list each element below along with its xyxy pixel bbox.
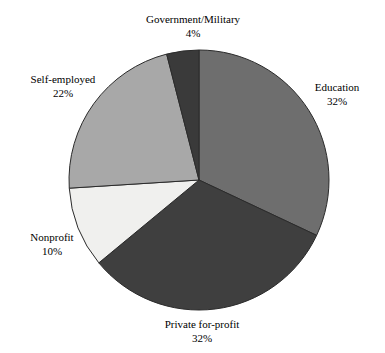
slice-label-education: Education 32% (294, 80, 380, 108)
slice-label-nonprofit-name: Nonprofit (4, 230, 100, 244)
slice-label-private-for-profit-value: 32% (132, 331, 272, 345)
slice-label-government-military: Government/Military 4% (113, 12, 273, 40)
slice-label-education-value: 32% (294, 94, 380, 108)
pie-chart: Government/Military 4% Education 32% Sel… (0, 0, 385, 353)
slice-label-private-for-profit-name: Private for-profit (132, 317, 272, 331)
slice-label-self-employed-name: Self-employed (8, 72, 118, 86)
slice-label-self-employed: Self-employed 22% (8, 72, 118, 100)
pie-chart-canvas (0, 0, 385, 353)
slice-label-government-military-name: Government/Military (113, 12, 273, 26)
slice-label-nonprofit-value: 10% (4, 244, 100, 258)
slice-label-nonprofit: Nonprofit 10% (4, 230, 100, 258)
slice-label-self-employed-value: 22% (8, 86, 118, 100)
slice-label-private-for-profit: Private for-profit 32% (132, 317, 272, 345)
slice-label-education-name: Education (294, 80, 380, 94)
slice-label-government-military-value: 4% (113, 26, 273, 40)
